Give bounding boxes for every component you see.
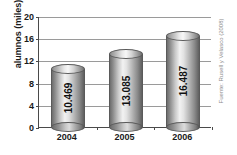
y-axis-tick bbox=[36, 128, 39, 129]
y-axis-tick bbox=[36, 17, 39, 18]
bar: 13.085 bbox=[109, 54, 143, 127]
bar-cylinder-body: 10.469 bbox=[51, 69, 85, 127]
y-axis-tick-label: 20 bbox=[24, 12, 34, 22]
x-axis-tick-label: 2005 bbox=[114, 132, 134, 142]
x-axis-tick bbox=[154, 127, 155, 130]
bar-value-label: 16.487 bbox=[178, 66, 189, 97]
source-note: Fuente: Rusell y Velasco (2008) bbox=[218, 6, 228, 116]
plot-area: 048121620 10.46913.08516.487 bbox=[38, 17, 211, 128]
bar-cylinder-base bbox=[51, 122, 85, 132]
x-axis-tick bbox=[212, 127, 213, 130]
bar-cylinder-base bbox=[109, 122, 143, 132]
bar: 10.469 bbox=[51, 69, 85, 127]
bar-cylinder-cap bbox=[109, 49, 143, 59]
y-axis-tick-label: 8 bbox=[29, 79, 34, 89]
y-axis-tick-label: 0 bbox=[29, 123, 34, 133]
gridline bbox=[39, 17, 211, 18]
y-axis-tick bbox=[36, 106, 39, 107]
bar-cylinder-cap bbox=[166, 31, 200, 41]
y-axis-tick bbox=[36, 39, 39, 40]
bar-cylinder-body: 13.085 bbox=[109, 54, 143, 127]
bar-cylinder-base bbox=[166, 122, 200, 132]
y-axis-tick bbox=[36, 61, 39, 62]
bar: 16.487 bbox=[166, 36, 200, 128]
chart-title bbox=[0, 0, 237, 3]
bar-cylinder-cap bbox=[51, 64, 85, 74]
y-axis-tick-label: 12 bbox=[24, 56, 34, 66]
x-axis-tick-label: 2004 bbox=[57, 132, 77, 142]
bar-chart: alumnos (miles) 048121620 10.46913.08516… bbox=[0, 0, 237, 155]
y-axis-tick-label: 4 bbox=[29, 101, 34, 111]
x-axis-tick-label: 2006 bbox=[172, 132, 192, 142]
x-axis-tick bbox=[97, 127, 98, 130]
bar-value-label: 13.085 bbox=[120, 75, 131, 106]
y-axis-tick-label: 16 bbox=[24, 34, 34, 44]
y-axis-tick bbox=[36, 84, 39, 85]
bar-cylinder-body: 16.487 bbox=[166, 36, 200, 128]
bar-value-label: 10.469 bbox=[62, 83, 73, 114]
